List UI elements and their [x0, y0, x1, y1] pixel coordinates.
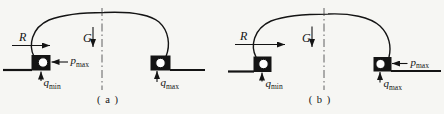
- label-R-a: R: [18, 30, 27, 44]
- label-G-a: G: [83, 31, 92, 45]
- wheel-left-b: [254, 57, 271, 72]
- wheel-right-a: [151, 56, 170, 70]
- label-R-b: R: [239, 29, 248, 43]
- label-qmin-b: qmin: [266, 77, 283, 92]
- label-qmax-a: qmax: [161, 76, 180, 91]
- figure-canvas: R G pmax qmin qmax ( a ): [0, 0, 444, 114]
- label-G-b: G: [302, 31, 311, 45]
- label-qmax-b: qmax: [384, 77, 403, 92]
- frame-outline-a: [31, 12, 168, 56]
- panel-a: R G pmax qmin qmax ( a ): [3, 8, 205, 106]
- label-pmax-b: pmax: [410, 56, 430, 71]
- panel-b: R G pmax qmin qmax ( b ): [228, 8, 441, 106]
- label-pmax-a: pmax: [70, 54, 90, 69]
- caption-a: ( a ): [97, 94, 119, 106]
- wheel-right-b: [374, 58, 391, 72]
- wheel-left-a: [32, 56, 50, 71]
- frame-outline-b: [253, 14, 390, 57]
- wheel-left-b-bore: [259, 59, 268, 68]
- crane-wheel-load-diagram: R G pmax qmin qmax ( a ): [0, 0, 444, 114]
- wheel-left-a-bore: [38, 58, 47, 67]
- wheel-right-b-bore: [376, 59, 385, 68]
- caption-b: ( b ): [309, 94, 332, 106]
- wheel-right-a-bore: [156, 58, 165, 67]
- label-qmin-a: qmin: [44, 76, 61, 91]
